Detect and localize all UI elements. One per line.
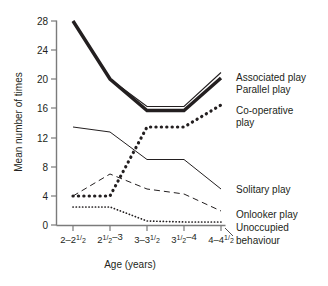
x-axis: 2–21/2 21/2–3 3–31/2 31/2–4 4–41/2 Age (… xyxy=(57,226,234,271)
y-axis-title: Mean number of times xyxy=(13,72,24,172)
series-line-associated-play xyxy=(73,21,221,107)
legend-label-unoccupied-behaviour: Unoccupied xyxy=(236,222,289,233)
x-tick-label-0: 2–21/2 xyxy=(60,234,86,245)
y-tick-label-20: 20 xyxy=(37,74,49,85)
series-line-onlooker-play xyxy=(73,174,221,211)
series-line-unoccupied-behaviour xyxy=(73,207,221,222)
y-tick-label-24: 24 xyxy=(37,45,49,56)
series-line-co-operative-play xyxy=(73,105,221,196)
y-tick-label-8: 8 xyxy=(42,162,48,173)
legend-label-associated-play: Associated play xyxy=(236,72,306,83)
chart-legend: Associated play Parallel play Co-operati… xyxy=(225,72,306,246)
legend-label-co-operative-play-line2: play xyxy=(236,117,254,128)
series-co-operative-play xyxy=(73,105,221,196)
series-onlooker-play xyxy=(73,174,221,211)
legend-label-co-operative-play: Co-operative xyxy=(236,105,294,116)
legend-label-onlooker-play: Onlooker play xyxy=(236,209,298,220)
series-unoccupied-behaviour xyxy=(73,207,221,222)
legend-label-solitary-play: Solitary play xyxy=(236,184,290,195)
y-tick-label-16: 16 xyxy=(37,103,49,114)
chart-figure: 28 24 20 16 12 8 4 0 Mean number of time… xyxy=(0,0,328,286)
y-axis: 28 24 20 16 12 8 4 0 Mean number of time… xyxy=(13,16,57,231)
x-tick-label-4: 4–41/2 xyxy=(208,234,234,245)
y-tick-label-12: 12 xyxy=(37,133,49,144)
x-tick-label-2: 3–31/2 xyxy=(134,234,160,245)
series-line-parallel-play xyxy=(73,21,221,111)
y-tick-label-28: 28 xyxy=(37,16,49,27)
series-associated-play xyxy=(73,21,221,107)
series-line-solitary-play xyxy=(73,127,221,189)
line-chart: 28 24 20 16 12 8 4 0 Mean number of time… xyxy=(0,0,328,286)
y-tick-label-4: 4 xyxy=(42,191,48,202)
x-tick-label-3: 31/2–4 xyxy=(171,231,197,245)
series-parallel-play xyxy=(73,21,221,111)
legend-label-parallel-play: Parallel play xyxy=(236,84,290,95)
legend-label-unoccupied-behaviour-line2: behaviour xyxy=(236,235,281,246)
x-axis-title: Age (years) xyxy=(104,259,156,270)
y-tick-label-0: 0 xyxy=(42,220,48,231)
x-tick-label-1: 21/2–3 xyxy=(97,231,123,245)
series-solitary-play xyxy=(73,127,221,189)
